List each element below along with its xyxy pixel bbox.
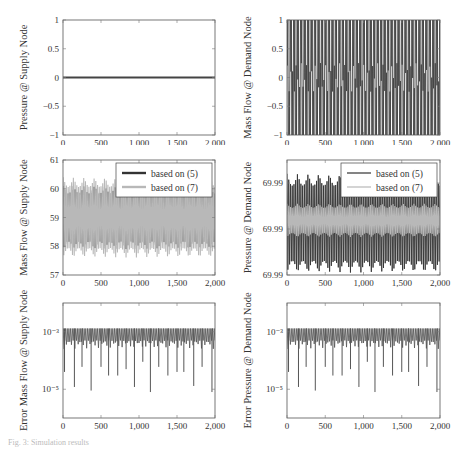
x-tick-label: 500: [319, 421, 333, 431]
y-tick-label: 57: [50, 270, 60, 280]
x-tick-label: 0: [285, 421, 290, 431]
y-axis-label: Pressure @ Demand Node: [242, 161, 253, 273]
y-axis-label: Error Pressure @ Demand Node: [242, 292, 253, 429]
y-tick-label: 10⁻⁵: [42, 384, 59, 394]
x-tick-label: 0: [285, 278, 290, 288]
chart-mass-flow-demand-node: 05001,0001,5002,000−1−0.500.51Mass Flow …: [224, 0, 464, 145]
y-tick-label: 10⁻³: [43, 327, 60, 337]
chart-svg: 05001,0001,5002,00010⁻³10⁻⁵Error Mass Fl…: [0, 290, 232, 435]
y-tick-label: 10⁻³: [267, 327, 284, 337]
chart-svg: 05001,0001,5002,000−1−0.500.51Pressure @…: [0, 0, 232, 145]
x-tick-label: 0: [61, 278, 66, 288]
y-tick-label: 69.99: [263, 224, 284, 234]
chart-svg: 05001,0001,5002,0005758596061Mass Flow @…: [0, 145, 232, 290]
y-tick-label: 61: [50, 155, 59, 165]
plot-frame: [63, 303, 215, 418]
y-tick-label: 10⁻⁵: [266, 384, 283, 394]
x-tick-label: 1,500: [392, 421, 413, 431]
y-tick-label: 0.5: [48, 44, 60, 54]
x-tick-label: 0: [61, 421, 66, 431]
y-tick-label: −1: [49, 130, 59, 140]
x-tick-label: 0: [61, 138, 66, 145]
x-tick-label: 2,000: [205, 421, 226, 431]
x-tick-label: 500: [94, 278, 108, 288]
x-tick-label: 2,000: [205, 278, 226, 288]
chart-svg: 05001,0001,5002,000−1−0.500.51Mass Flow …: [224, 0, 464, 145]
x-tick-label: 1,000: [129, 278, 150, 288]
y-tick-label: −1: [273, 130, 283, 140]
x-tick-label: 1,500: [167, 421, 188, 431]
x-tick-label: 2,000: [430, 138, 451, 145]
x-tick-label: 1,500: [167, 278, 188, 288]
y-tick-label: 60: [50, 184, 60, 194]
x-tick-label: 1,000: [353, 278, 374, 288]
y-tick-label: 69.99: [263, 178, 284, 188]
legend-label: based on (7): [376, 183, 423, 194]
legend: based on (5)based on (7): [116, 163, 212, 197]
y-tick-label: 1: [279, 15, 284, 25]
plot-area: [287, 20, 440, 135]
x-tick-label: 1,000: [129, 138, 150, 145]
x-tick-label: 1,500: [392, 278, 413, 288]
y-axis-label: Pressure @ Supply Node: [18, 24, 29, 130]
chart-svg: 05001,0001,5002,00069.9969.9969.99Pressu…: [224, 145, 464, 290]
y-tick-label: 0: [55, 73, 60, 83]
x-tick-label: 2,000: [205, 138, 226, 145]
y-tick-label: 1: [55, 15, 60, 25]
y-tick-label: 0: [279, 73, 284, 83]
y-tick-label: 58: [50, 241, 60, 251]
chart-mass-flow-supply-node: 05001,0001,5002,0005758596061Mass Flow @…: [0, 145, 232, 290]
chart-error-mass-flow-supply-node: 05001,0001,5002,00010⁻³10⁻⁵Error Mass Fl…: [0, 290, 232, 435]
x-tick-label: 1,500: [167, 138, 188, 145]
x-tick-label: 1,000: [353, 138, 374, 145]
x-tick-label: 1,000: [129, 421, 150, 431]
x-tick-label: 500: [94, 138, 108, 145]
figure-caption: Fig. 3: Simulation results: [8, 438, 89, 447]
legend: based on (5)based on (7): [341, 163, 437, 197]
x-tick-label: 0: [285, 138, 290, 145]
y-tick-label: 59: [50, 213, 60, 223]
y-tick-label: 0.5: [272, 44, 284, 54]
y-axis-label: Mass Flow @ Supply Node: [18, 159, 29, 276]
x-tick-label: 2,000: [430, 278, 451, 288]
chart-error-pressure-demand-node: 05001,0001,5002,00010⁻³10⁻⁵Error Pressur…: [224, 290, 464, 435]
x-tick-label: 500: [319, 278, 333, 288]
chart-pressure-demand-node: 05001,0001,5002,00069.9969.9969.99Pressu…: [224, 145, 464, 290]
plot-frame: [287, 303, 440, 418]
y-axis-label: Error Mass Flow @ Supply Node: [18, 290, 29, 431]
x-tick-label: 1,500: [392, 138, 413, 145]
plot-area: [63, 328, 215, 392]
x-tick-label: 2,000: [430, 421, 451, 431]
legend-label: based on (5): [376, 169, 423, 180]
chart-svg: 05001,0001,5002,00010⁻³10⁻⁵Error Pressur…: [224, 290, 464, 435]
x-tick-label: 1,000: [353, 421, 374, 431]
y-tick-label: −0.5: [43, 101, 60, 111]
y-axis-label: Mass Flow @ Demand Node: [242, 16, 253, 139]
x-tick-label: 500: [319, 138, 333, 145]
x-tick-label: 500: [94, 421, 108, 431]
chart-pressure-supply-node: 05001,0001,5002,000−1−0.500.51Pressure @…: [0, 0, 232, 145]
y-tick-label: 69.99: [263, 270, 284, 280]
plot-area: [287, 328, 440, 392]
y-tick-label: −0.5: [267, 101, 284, 111]
legend-label: based on (7): [151, 183, 198, 194]
legend-label: based on (5): [151, 169, 198, 180]
